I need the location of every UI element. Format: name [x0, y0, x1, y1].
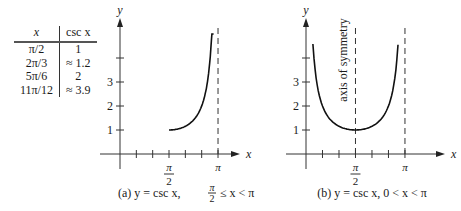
caption: (a) y = csc x, [118, 186, 180, 200]
csc-curve [169, 34, 214, 130]
csc-plots: (a) y = csc x,xy123π2ππ2≤ x < πaxis of s… [0, 0, 461, 211]
x-axis-label: x [245, 147, 252, 161]
y-tick-label: 1 [293, 123, 299, 137]
x-tick-label-num: π [353, 161, 359, 173]
x-axis-label: x [450, 147, 457, 161]
y-tick-label: 3 [293, 75, 299, 89]
caption-frac-den: 2 [210, 193, 215, 204]
y-axis-label: y [116, 3, 123, 17]
y-tick-label: 2 [293, 99, 299, 113]
csc-curve [313, 44, 398, 130]
panel-b: axis of symmetry [286, 18, 445, 174]
x-tick-label: π [215, 161, 221, 173]
axis-of-symmetry-label: axis of symmetry [336, 18, 350, 101]
y-tick-label: 2 [107, 99, 113, 113]
y-tick-label: 3 [107, 75, 113, 89]
y-axis-arrow [117, 18, 123, 27]
caption-frac-num: π [209, 182, 215, 193]
x-tick-label-den: 2 [166, 175, 172, 187]
x-axis-arrow [231, 151, 240, 157]
caption-inequality: ≤ x < π [220, 186, 254, 200]
y-axis-label: y [302, 3, 309, 17]
x-tick-label: π [402, 161, 408, 173]
y-tick-label: 1 [107, 123, 113, 137]
x-axis-arrow [436, 151, 445, 157]
x-tick-label-num: π [166, 161, 172, 173]
y-axis-arrow [303, 18, 309, 27]
caption: (b) y = csc x, 0 < x < π [317, 186, 427, 200]
